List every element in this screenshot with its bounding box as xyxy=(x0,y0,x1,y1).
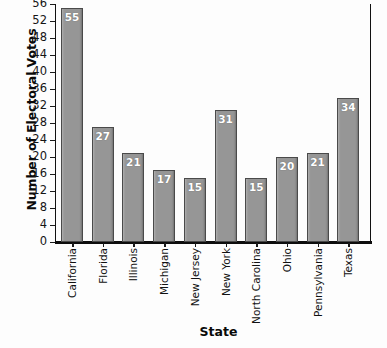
x-axis-category-label: Michigan xyxy=(153,246,175,316)
x-axis-category-text: New York xyxy=(220,248,232,296)
bar-value-label: 31 xyxy=(215,113,237,125)
bar-item[interactable]: 55 xyxy=(61,8,83,242)
bar-value-label: 15 xyxy=(184,181,206,193)
bar-item[interactable]: 31 xyxy=(215,110,237,242)
x-axis-category-text: Michigan xyxy=(158,248,170,295)
x-axis-category-text: Illinois xyxy=(127,248,139,281)
bar[interactable] xyxy=(337,98,359,243)
y-axis-tick-label: 56 xyxy=(21,0,47,10)
bar-value-label: 15 xyxy=(245,181,267,193)
x-axis-category-label: New York xyxy=(215,246,237,316)
x-axis-category-text: New Jersey xyxy=(189,248,201,306)
bar[interactable] xyxy=(92,127,114,242)
y-axis-tick-label: 0 xyxy=(21,234,47,248)
x-axis-category-text: Texas xyxy=(342,248,354,277)
x-axis-category-label: California xyxy=(61,246,83,316)
x-axis-category-label: Illinois xyxy=(122,246,144,316)
x-axis-category-label: Ohio xyxy=(276,246,298,316)
bar-item[interactable]: 21 xyxy=(122,153,144,242)
bar-value-label: 55 xyxy=(61,11,83,23)
bar-item[interactable]: 34 xyxy=(337,98,359,243)
bar-value-label: 27 xyxy=(92,130,114,142)
bar-value-label: 20 xyxy=(276,160,298,172)
bar[interactable] xyxy=(215,110,237,242)
x-axis-category-text: Florida xyxy=(97,248,109,284)
x-axis-category-label: Florida xyxy=(92,246,114,316)
bars-container: 55272117153115202134 xyxy=(55,4,371,242)
x-axis-category-label: New Jersey xyxy=(184,246,206,316)
bar-item[interactable]: 20 xyxy=(276,157,298,242)
bar[interactable] xyxy=(61,8,83,242)
x-axis-title: State xyxy=(0,324,387,339)
x-axis-category-text: North Carolina xyxy=(250,248,262,324)
bar-item[interactable]: 27 xyxy=(92,127,114,242)
x-axis-category-label: Texas xyxy=(337,246,359,316)
x-axis-category-text: Pennsylvania xyxy=(312,248,324,317)
bar-value-label: 34 xyxy=(337,101,359,113)
bar-item[interactable]: 15 xyxy=(184,178,206,242)
bar-item[interactable]: 21 xyxy=(307,153,329,242)
x-axis-category-text: Ohio xyxy=(281,248,293,272)
bar-value-label: 21 xyxy=(122,156,144,168)
bar-value-label: 21 xyxy=(307,156,329,168)
x-axis-category-text: California xyxy=(66,248,78,298)
y-axis-title: Number of Electoral Votes xyxy=(24,20,39,220)
x-axis-category-label: Pennsylvania xyxy=(307,246,329,316)
x-axis-category-label: North Carolina xyxy=(245,246,267,316)
bar-value-label: 17 xyxy=(153,173,175,185)
bar-chart: Number of Electoral Votes 04812162024283… xyxy=(0,0,387,348)
bar-item[interactable]: 17 xyxy=(153,170,175,242)
x-axis-labels: CaliforniaFloridaIllinoisMichiganNew Jer… xyxy=(55,246,372,316)
bar-item[interactable]: 15 xyxy=(245,178,267,242)
